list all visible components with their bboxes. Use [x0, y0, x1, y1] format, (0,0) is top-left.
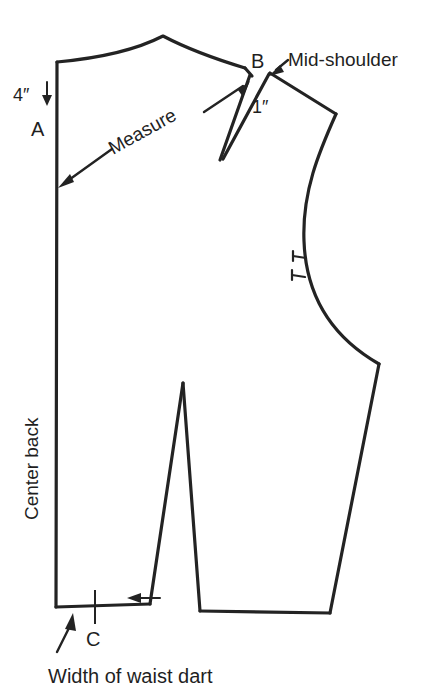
pattern-diagram: 4″ A Measure B Mid-shoulder 1″ Center: [0, 0, 439, 689]
diagram-background: [0, 0, 439, 689]
waist-dart-caption-label: Width of waist dart: [48, 665, 213, 687]
point-c-label: C: [86, 628, 100, 650]
one-inch-label: 1″: [252, 97, 269, 117]
center-back-label: Center back: [21, 417, 42, 520]
point-a-label: A: [31, 118, 45, 140]
four-inch-label: 4″: [13, 85, 30, 105]
waistline-right-path: [200, 611, 330, 613]
back-bodice-pattern-svg: 4″ A Measure B Mid-shoulder 1″ Center: [0, 0, 439, 689]
mid-shoulder-label: Mid-shoulder: [288, 49, 398, 70]
center-back-line-path: [56, 62, 57, 607]
point-b-label: B: [251, 50, 264, 72]
